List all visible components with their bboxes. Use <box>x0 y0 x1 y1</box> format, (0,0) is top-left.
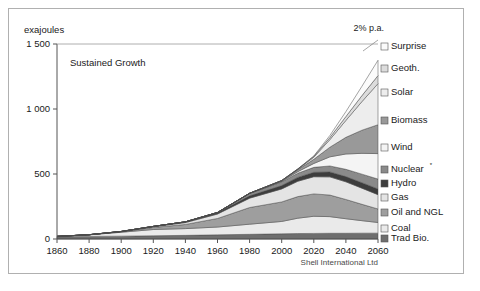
x-tick-label: 2060 <box>367 245 388 256</box>
legend-swatch <box>381 89 388 96</box>
y-tick-label: 1 500 <box>26 38 50 49</box>
legend-swatch <box>381 65 388 72</box>
legend-swatch <box>381 43 388 50</box>
annotations-group: 2% p.a. <box>353 23 384 51</box>
legend-group: SurpriseGeoth.SolarBiomassWindNuclear*Hy… <box>381 40 443 243</box>
x-tick-label: 2000 <box>271 245 292 256</box>
source-attribution: Shell International Ltd <box>301 258 378 267</box>
y-tick-label: 500 <box>34 168 50 179</box>
legend-swatch <box>381 209 388 216</box>
growth-rate-annotation: 2% p.a. <box>353 23 384 33</box>
scenario-title: Sustained Growth <box>70 57 146 68</box>
legend-swatch <box>381 144 388 151</box>
x-tick-label: 2040 <box>335 245 356 256</box>
legend-label: Geoth. <box>391 62 420 73</box>
legend-swatch <box>381 180 388 187</box>
legend-footnote-marker: * <box>430 162 433 168</box>
x-tick-label: 1900 <box>111 245 132 256</box>
x-tick-label: 1920 <box>143 245 164 256</box>
y-axis-unit-label: exajoules <box>24 24 64 35</box>
x-tick-label: 1860 <box>46 245 67 256</box>
legend-label: Trad Bio. <box>391 232 429 243</box>
x-tick-label: 1980 <box>239 245 260 256</box>
legend-label: Surprise <box>391 40 426 51</box>
x-tick-label: 1960 <box>207 245 228 256</box>
stacked-area-chart: 05001 0001 50018601880190019201940196019… <box>0 0 480 291</box>
legend-label: Solar <box>391 86 413 97</box>
legend-swatch <box>381 225 388 232</box>
legend-label: Hydro <box>391 177 416 188</box>
x-tick-label: 2020 <box>303 245 324 256</box>
y-tick-label: 0 <box>45 233 50 244</box>
area-bands-group <box>57 60 378 239</box>
legend-label: Biomass <box>391 114 428 125</box>
legend-swatch <box>381 117 388 124</box>
figure-root: 05001 0001 50018601880190019201940196019… <box>0 0 480 291</box>
legend-swatch <box>381 194 388 201</box>
legend-label: Gas <box>391 191 409 202</box>
x-tick-label: 1880 <box>79 245 100 256</box>
legend-label: Nuclear <box>391 163 424 174</box>
annotation-leader-line <box>363 40 378 51</box>
y-tick-label: 1 000 <box>26 103 50 114</box>
x-tick-label: 1940 <box>175 245 196 256</box>
legend-swatch <box>381 235 388 242</box>
legend-label: Oil and NGL <box>391 206 443 217</box>
legend-swatch <box>381 166 388 173</box>
legend-label: Wind <box>391 141 413 152</box>
